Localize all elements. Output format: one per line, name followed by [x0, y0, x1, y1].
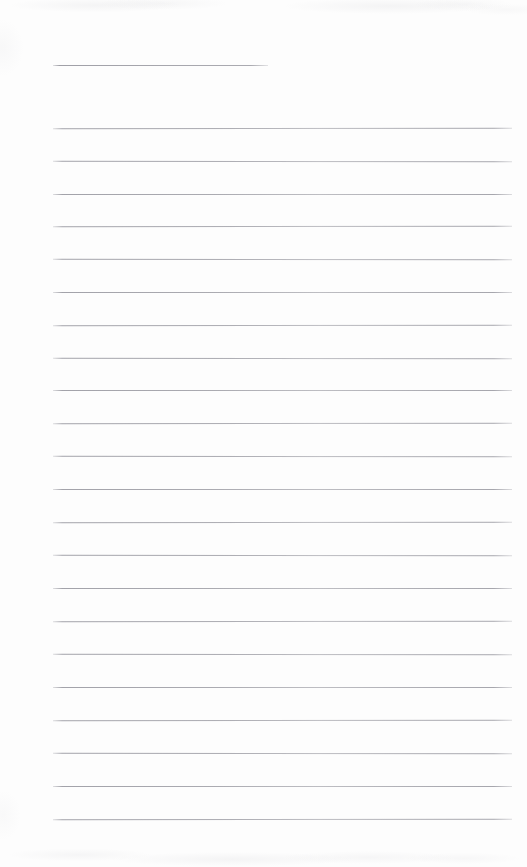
ruled-line [53, 456, 512, 457]
ruled-line [53, 489, 512, 490]
scan-grain-artifacts [0, 0, 527, 867]
ruled-line [53, 819, 512, 820]
ruled-line [53, 358, 512, 359]
scanned-page [0, 0, 527, 867]
ruled-line [53, 720, 512, 721]
ruled-line [53, 621, 512, 622]
ruled-line [53, 259, 512, 260]
ruled-line [53, 194, 512, 195]
header-rule [53, 65, 268, 66]
ruled-line [53, 522, 512, 523]
ruled-line [53, 390, 512, 391]
ruled-line [53, 753, 512, 754]
ruled-line [53, 161, 512, 162]
ruled-line [53, 226, 512, 227]
ruled-line [53, 786, 512, 787]
ruled-line [53, 588, 512, 589]
ruled-line [53, 687, 512, 688]
ruled-line [53, 654, 512, 655]
ruled-line [53, 555, 512, 556]
ruled-line [53, 325, 512, 326]
ruled-line [53, 128, 512, 129]
ruled-line [53, 423, 512, 424]
ruled-line [53, 292, 512, 293]
